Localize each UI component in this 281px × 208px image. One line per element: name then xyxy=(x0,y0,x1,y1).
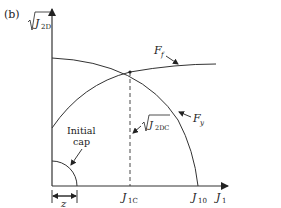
j1c-tick-label: J 1C xyxy=(120,191,138,205)
panel-label: (b) xyxy=(4,8,20,21)
initial-cap-label-line1: Initial xyxy=(67,125,95,136)
svg-text:10: 10 xyxy=(198,197,207,205)
z-label: z xyxy=(60,198,67,208)
initial-cap-curve xyxy=(52,161,77,186)
svg-text:J: J xyxy=(147,119,154,130)
initial-cap-label-line2: cap xyxy=(73,136,90,147)
ff-failure-curve xyxy=(52,64,216,128)
cap-arrow-icon xyxy=(71,149,82,165)
ff-arrow-icon xyxy=(166,56,178,64)
svg-text:1C: 1C xyxy=(128,197,138,205)
cap-model-diagram: (b) J 2D F f F y J 2DC Initial cap xyxy=(0,0,281,208)
fy-arrow-icon xyxy=(179,112,191,117)
svg-text:1: 1 xyxy=(222,197,226,205)
x-axis-label: J 1 xyxy=(214,191,226,205)
j2dc-label: J 2DC xyxy=(142,115,170,132)
intersection-point xyxy=(128,70,131,73)
y-axis-label: J 2D xyxy=(28,12,51,31)
j10-tick-label: J 10 xyxy=(190,191,207,205)
svg-text:2DC: 2DC xyxy=(155,124,169,132)
svg-text:y: y xyxy=(199,119,205,127)
svg-text:J: J xyxy=(120,191,127,204)
fy-yield-curve xyxy=(52,58,198,186)
fy-label: F y xyxy=(192,112,205,127)
svg-text:J: J xyxy=(214,191,221,204)
svg-text:2D: 2D xyxy=(41,23,51,31)
svg-text:f: f xyxy=(160,51,165,59)
ff-label: F f xyxy=(153,44,165,59)
svg-text:J: J xyxy=(190,191,197,204)
j2dc-arrow-icon xyxy=(133,126,141,133)
svg-text:J: J xyxy=(33,17,40,30)
